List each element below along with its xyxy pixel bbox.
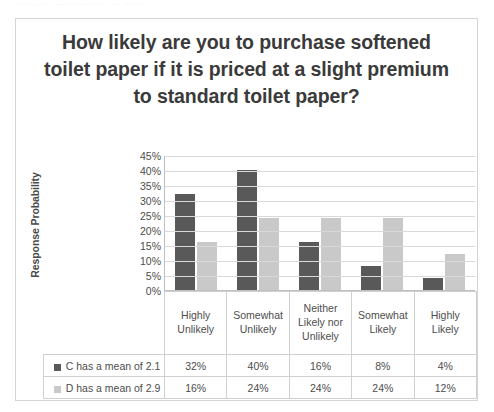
chart-container: How likely are you to purchase softened … xyxy=(15,18,478,401)
bar-series-d xyxy=(383,218,403,290)
y-tick-label: 45% xyxy=(140,151,161,162)
bar-series-d xyxy=(197,242,217,290)
gridline xyxy=(165,201,475,202)
bar-series-d xyxy=(259,218,279,290)
table-cell-value: 40% xyxy=(227,355,289,377)
legend-swatch-icon xyxy=(54,386,61,393)
data-table: Highly UnlikelySomewhat UnlikelyNeither … xyxy=(43,291,477,399)
y-tick-label: 15% xyxy=(140,241,161,252)
bar-series-c xyxy=(237,170,257,290)
bar-group xyxy=(289,156,351,290)
category-label: Highly Likely xyxy=(414,292,476,355)
table-cell-value: 4% xyxy=(414,355,476,377)
category-header-row: Highly UnlikelySomewhat UnlikelyNeither … xyxy=(44,292,477,355)
bar-series-c xyxy=(361,266,381,290)
y-axis-tick-labels: 45%40%35%30%25%20%15%10%5%0% xyxy=(121,153,161,291)
plot-area xyxy=(164,156,475,291)
bar-series-d xyxy=(445,254,465,290)
y-tick-label: 30% xyxy=(140,196,161,207)
category-label: Somewhat Unlikely xyxy=(227,292,289,355)
y-tick-label: 25% xyxy=(140,211,161,222)
legend-label: D has a mean of 2.9 xyxy=(66,382,161,394)
y-tick-label: 5% xyxy=(146,271,161,282)
bar-series-d xyxy=(321,218,341,290)
bar-group xyxy=(413,156,475,290)
bar-group xyxy=(227,156,289,290)
table-cell-value: 8% xyxy=(352,355,414,377)
category-label: Highly Unlikely xyxy=(165,292,227,355)
table-row: C has a mean of 2.132%40%16%8%4% xyxy=(44,355,477,377)
y-axis-title: Response Probability xyxy=(29,150,41,300)
legend-entry: D has a mean of 2.9 xyxy=(44,377,165,399)
bar-series-c xyxy=(423,278,443,290)
table-row: D has a mean of 2.916%24%24%24%12% xyxy=(44,377,477,399)
gridline xyxy=(165,216,475,217)
y-tick-label: 20% xyxy=(140,226,161,237)
gridline xyxy=(165,171,475,172)
table-cell-value: 24% xyxy=(227,377,289,399)
table-cell-value: 16% xyxy=(165,377,227,399)
bar-groups xyxy=(165,156,475,290)
y-tick-label: 40% xyxy=(140,166,161,177)
gridline xyxy=(165,261,475,262)
y-tick-label: 35% xyxy=(140,181,161,192)
legend-entry: C has a mean of 2.1 xyxy=(44,355,165,377)
gridline xyxy=(165,186,475,187)
gridline xyxy=(165,231,475,232)
table-cell-value: 24% xyxy=(289,377,351,399)
scan-artifact-text: ·· · ···· ·· · ··· ·· ···· ·· ·· · ··· ·… xyxy=(0,0,494,10)
table-cell-value: 24% xyxy=(352,377,414,399)
bar-series-c xyxy=(299,242,319,290)
category-label: Somewhat Likely xyxy=(352,292,414,355)
bar-group xyxy=(165,156,227,290)
y-tick-label: 10% xyxy=(140,256,161,267)
table-cell-value: 32% xyxy=(165,355,227,377)
legend-swatch-icon xyxy=(54,364,61,371)
table-cell-value: 16% xyxy=(289,355,351,377)
gridline xyxy=(165,276,475,277)
table-corner-spacer xyxy=(44,292,165,355)
category-label: Neither Likely nor Unlikely xyxy=(289,292,351,355)
chart-title: How likely are you to purchase softened … xyxy=(42,29,451,110)
legend-label: C has a mean of 2.1 xyxy=(66,360,161,372)
data-table-body: Highly UnlikelySomewhat UnlikelyNeither … xyxy=(44,292,477,399)
table-cell-value: 12% xyxy=(414,377,476,399)
bar-group xyxy=(351,156,413,290)
gridline xyxy=(165,246,475,247)
gridline xyxy=(165,156,475,157)
